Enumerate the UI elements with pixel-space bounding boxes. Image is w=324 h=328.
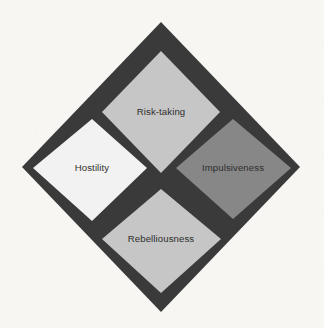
quadrant-label-rebelliousness: Rebelliousness [128,233,195,244]
quadrant-label-hostility: Hostility [75,162,110,173]
quadrant-label-risk-taking: Risk-taking [137,106,186,117]
quadrant-label-impulsiveness: Impulsiveness [202,162,264,173]
diagram-canvas: Risk-taking Impulsiveness Rebelliousness… [0,0,324,328]
diamond-quadrant-diagram: Risk-taking Impulsiveness Rebelliousness… [0,0,324,328]
